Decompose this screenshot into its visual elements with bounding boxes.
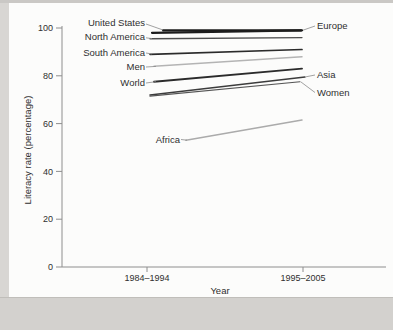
series-label-men: Men bbox=[127, 61, 145, 72]
series-leader-asia bbox=[306, 75, 315, 77]
y-tick-label-100: 100 bbox=[38, 23, 53, 33]
x-axis-title: Year bbox=[210, 285, 229, 296]
series-leader-north-america bbox=[146, 38, 152, 39]
series-label-united-states: United States bbox=[88, 17, 145, 28]
y-tick-label-80: 80 bbox=[43, 71, 53, 81]
series-line-women bbox=[150, 82, 300, 96]
series-label-africa: Africa bbox=[156, 134, 181, 145]
series-label-south-america: South America bbox=[83, 47, 145, 58]
series-label-women: Women bbox=[317, 87, 350, 98]
series-labels: United StatesEuropeNorth AmericaSouth Am… bbox=[83, 17, 349, 145]
series-leader-women bbox=[301, 82, 315, 93]
y-tick-label-20: 20 bbox=[43, 214, 53, 224]
y-axis-title: Literacy rate (percentage) bbox=[22, 96, 33, 205]
series-label-world: World bbox=[120, 77, 145, 88]
series-label-europe: Europe bbox=[317, 20, 348, 31]
x-tick-label-0: 1984–1994 bbox=[124, 273, 169, 283]
series-line-africa bbox=[186, 120, 302, 140]
y-tick-label-40: 40 bbox=[43, 167, 53, 177]
y-tick-label-60: 60 bbox=[43, 119, 53, 129]
y-tick-label-0: 0 bbox=[48, 262, 53, 272]
series-leader-south-america bbox=[146, 53, 152, 54]
series-label-north-america: North America bbox=[85, 31, 146, 42]
x-tick-label-1: 1995–2005 bbox=[280, 273, 325, 283]
series-line-north-america bbox=[150, 38, 302, 39]
series-leader-united-states bbox=[146, 24, 163, 30]
series-label-asia: Asia bbox=[317, 69, 336, 80]
series-line-men bbox=[154, 57, 302, 67]
series-lines bbox=[150, 30, 305, 140]
series-leader-europe bbox=[303, 26, 315, 30]
series-line-south-america bbox=[150, 50, 302, 55]
